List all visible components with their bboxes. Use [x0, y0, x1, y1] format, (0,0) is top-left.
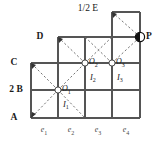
axis-label-2b: 2 B: [9, 85, 22, 95]
axis-label-d: D: [37, 32, 44, 42]
dash-o2-upleft-d: [58, 37, 85, 63]
point-p-label: P: [146, 32, 152, 42]
edge-label-i3: I3: [117, 73, 123, 84]
edge-label-i3-sub: 3: [120, 77, 123, 83]
bottom-label-e2-sub: 2: [71, 130, 74, 136]
bottom-label-e2: e2: [68, 126, 75, 136]
bottom-label-e3: e3: [95, 126, 102, 136]
node-marker-o1[interactable]: [55, 87, 61, 93]
point-p-marker[interactable]: [135, 32, 144, 41]
node-label-o1-sub: 1: [68, 89, 71, 95]
arrow-corner-d: [58, 37, 63, 43]
node-label-o3-sub: 3: [122, 62, 125, 68]
bottom-label-e1-sub: 1: [44, 130, 47, 136]
diagram-svg: [0, 0, 161, 143]
bottom-label-e3-sub: 3: [98, 130, 101, 136]
node-marker-o3[interactable]: [109, 60, 115, 66]
arrow-corner-a: [31, 112, 36, 118]
node-label-o3: O3: [116, 58, 125, 68]
edge-label-i1-sub: 1: [66, 104, 69, 110]
dash-topbox-diagonal: [112, 12, 140, 37]
edge-label-i2-sub: 2: [93, 77, 96, 83]
edge-label-i2: I2: [90, 73, 96, 84]
bottom-label-e1: e1: [41, 126, 48, 136]
axis-label-c: C: [11, 58, 18, 68]
arrow-corner-c: [31, 63, 36, 69]
bottom-label-e4-sub: 4: [126, 130, 129, 136]
node-label-o2-sub: 2: [95, 62, 98, 68]
bottom-label-e4: e4: [123, 126, 130, 136]
corner-arrow-marks: [31, 12, 117, 118]
top-label-half-e: 1/2 E: [78, 4, 98, 14]
node-marker-o2[interactable]: [82, 60, 88, 66]
node-label-o1: O1: [62, 85, 71, 95]
edge-label-i1: I1: [63, 100, 69, 111]
node-label-o2: O2: [89, 58, 98, 68]
axis-label-a: A: [11, 113, 18, 123]
dash-o1-upleft: [31, 63, 58, 90]
figure-canvas: 1/2 E P D C 2 B A O1 O2 O3 I1 I2 I3 e1 e…: [0, 0, 161, 143]
arrow-corner-topbox: [112, 12, 117, 18]
